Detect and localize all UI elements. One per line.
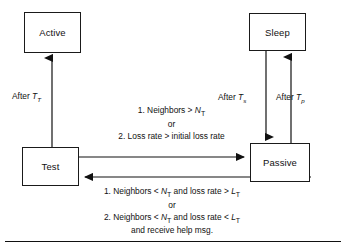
- state-label-test: Test: [42, 161, 60, 172]
- condition-bottom-line1-pre: 1. Neighbors <: [104, 186, 161, 196]
- condition-bottom-line1-sub2: T: [236, 191, 240, 198]
- after-tf-subscript: T: [37, 96, 41, 103]
- bottom-divider: [5, 241, 341, 242]
- after-tp-subscript: p: [301, 97, 304, 104]
- state-box-passive[interactable]: Passive: [250, 143, 310, 182]
- condition-top-line1-sub: T: [201, 110, 205, 117]
- edge-label-after-ts: After Ts: [218, 92, 246, 105]
- condition-bottom-line1-mid: and loss rate >: [171, 186, 231, 196]
- condition-bottom-line3-sub2: T: [236, 216, 240, 223]
- state-diagram-canvas: Active Sleep Test Passive After TT After…: [0, 0, 343, 248]
- edge-label-after-tf: After TT: [12, 91, 41, 104]
- condition-bottom-line4: and receive help msg.: [63, 225, 281, 237]
- state-label-active: Active: [39, 27, 65, 38]
- after-tp-prefix: After: [276, 92, 296, 102]
- condition-bottom-line3-mid: and loss rate <: [171, 212, 231, 222]
- after-ts-subscript: s: [243, 97, 246, 104]
- after-ts-prefix: After: [218, 92, 238, 102]
- condition-top-line1: 1. Neighbors > NT: [99, 105, 244, 119]
- state-box-sleep[interactable]: Sleep: [249, 13, 306, 51]
- condition-bottom-line1: 1. Neighbors < NT and loss rate > LT: [63, 186, 281, 200]
- condition-block-test-to-passive: 1. Neighbors > NT or 2. Loss rate > init…: [99, 105, 244, 142]
- state-label-sleep: Sleep: [265, 27, 290, 38]
- condition-bottom-or: or: [63, 200, 281, 212]
- condition-block-passive-to-test: 1. Neighbors < NT and loss rate > LT or …: [63, 186, 281, 237]
- condition-top-or: or: [99, 119, 244, 131]
- state-box-test[interactable]: Test: [22, 147, 79, 186]
- edge-label-after-tp: After Tp: [276, 92, 305, 105]
- condition-top-line1-pre: 1. Neighbors >: [138, 105, 195, 115]
- after-tf-prefix: After: [12, 91, 32, 101]
- state-label-passive: Passive: [263, 157, 297, 168]
- state-box-active[interactable]: Active: [24, 12, 81, 53]
- condition-top-line3: 2. Loss rate > initial loss rate: [99, 131, 244, 143]
- condition-bottom-line3: 2. Neighbors < NT and loss rate < LT: [63, 212, 281, 226]
- condition-bottom-line3-pre: 2. Neighbors <: [104, 212, 161, 222]
